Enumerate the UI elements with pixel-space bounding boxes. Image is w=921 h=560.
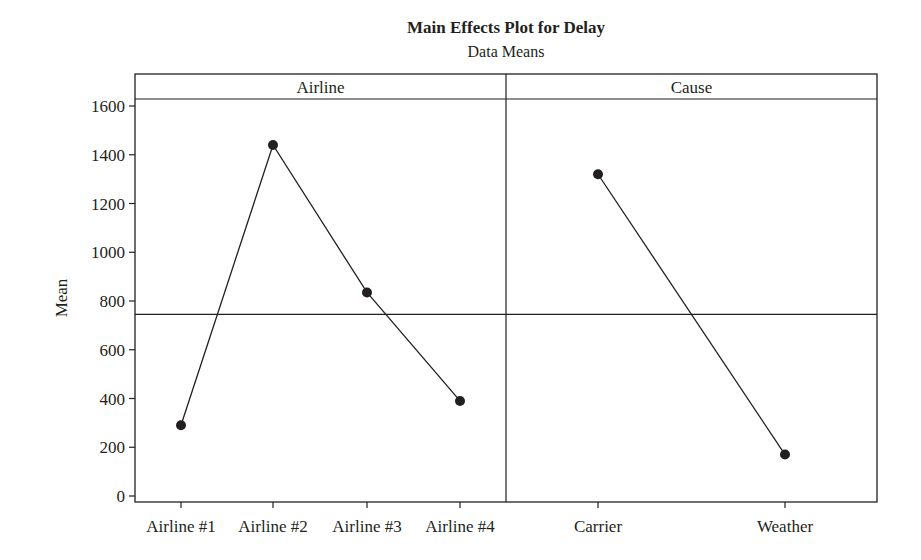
- y-tick-label: 0: [117, 487, 126, 506]
- panel-header: Cause: [671, 78, 713, 97]
- x-tick-label: Airline #4: [425, 517, 495, 536]
- plot-frame: [135, 74, 877, 502]
- data-point: [268, 140, 278, 150]
- main-effects-chart: Main Effects Plot for Delay Data Means M…: [0, 0, 921, 560]
- chart-title: Main Effects Plot for Delay: [407, 18, 605, 37]
- y-axis-label: Mean: [52, 278, 71, 317]
- data-point: [593, 169, 603, 179]
- panel-cause: CauseCarrierWeather: [574, 78, 814, 536]
- x-tick-label: Weather: [757, 517, 814, 536]
- panel-airline: AirlineAirline #1Airline #2Airline #3Air…: [146, 78, 495, 536]
- y-tick-label: 1400: [91, 146, 125, 165]
- panel-header: Airline: [296, 78, 344, 97]
- y-tick-label: 1600: [91, 97, 125, 116]
- y-tick-label: 600: [100, 341, 126, 360]
- y-tick-label: 400: [100, 390, 126, 409]
- data-point: [780, 450, 790, 460]
- chart-subtitle: Data Means: [468, 43, 545, 60]
- y-tick-label: 1200: [91, 195, 125, 214]
- y-tick-label: 200: [100, 438, 126, 457]
- x-tick-label: Carrier: [574, 517, 622, 536]
- y-axis: 02004006008001000120014001600: [91, 97, 135, 506]
- effect-line: [181, 145, 460, 425]
- x-tick-label: Airline #3: [332, 517, 401, 536]
- y-tick-label: 1000: [91, 243, 125, 262]
- data-point: [362, 287, 372, 297]
- panels: AirlineAirline #1Airline #2Airline #3Air…: [146, 78, 813, 536]
- data-point: [455, 396, 465, 406]
- y-tick-label: 800: [100, 292, 126, 311]
- x-tick-label: Airline #2: [238, 517, 307, 536]
- data-point: [176, 420, 186, 430]
- x-tick-label: Airline #1: [146, 517, 215, 536]
